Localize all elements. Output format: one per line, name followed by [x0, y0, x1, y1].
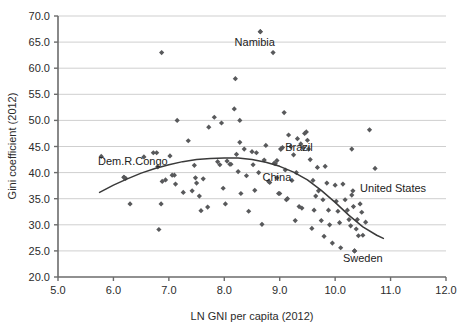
x-tick-label: 10.0: [324, 284, 345, 296]
x-tick-label: 7.0: [161, 284, 176, 296]
chart-background: [0, 0, 470, 329]
y-tick-label: 20.0: [29, 271, 50, 283]
y-tick-label: 50.0: [29, 114, 50, 126]
annotation-label-sweden: Sweden: [343, 252, 383, 264]
x-tick-label: 5.0: [50, 284, 65, 296]
x-axis-title: LN GNI per capita (2012): [191, 310, 314, 322]
y-tick-label: 70.0: [29, 10, 50, 22]
y-tick-label: 60.0: [29, 62, 50, 74]
x-tick-label: 11.0: [380, 284, 401, 296]
annotation-label-dem-r-congo: Dem.R.Congo: [98, 155, 168, 167]
y-tick-label: 25.0: [29, 245, 50, 257]
annotation-label-china: China: [263, 171, 293, 183]
x-tick-label: 12.0: [435, 284, 456, 296]
y-tick-label: 40.0: [29, 167, 50, 179]
y-tick-label: 55.0: [29, 88, 50, 100]
annotation-label-united-states: United States: [360, 182, 427, 194]
y-axis-title: Gini coefficient (2012): [6, 93, 18, 200]
chart-canvas: 20.025.030.035.040.045.050.055.060.065.0…: [0, 0, 470, 329]
y-tick-label: 45.0: [29, 141, 50, 153]
x-tick-label: 9.0: [272, 284, 287, 296]
y-tick-label: 30.0: [29, 219, 50, 231]
annotation-label-namibia: Namibia: [235, 36, 276, 48]
annotation-label-brazil: Brazil: [285, 141, 313, 153]
x-tick-label: 8.0: [217, 284, 232, 296]
scatter-plot-figure: 20.025.030.035.040.045.050.055.060.065.0…: [0, 0, 470, 329]
x-tick-label: 6.0: [106, 284, 121, 296]
y-tick-label: 65.0: [29, 36, 50, 48]
y-tick-label: 35.0: [29, 193, 50, 205]
